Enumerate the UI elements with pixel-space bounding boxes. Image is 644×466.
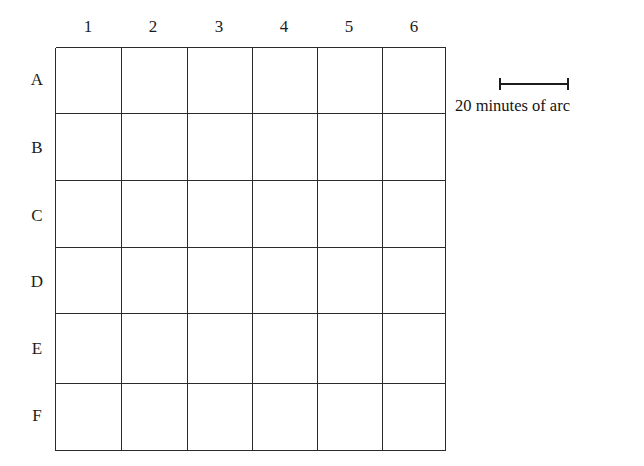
column-label-2: 2 [120,16,186,38]
grid-cell-b1[interactable] [55,113,121,180]
scale-bar-caption: 20 minutes of arc [455,96,640,116]
grid-cell-f2[interactable] [121,383,187,451]
row-label-a: A [26,70,48,90]
grid-cell-b6[interactable] [382,113,446,180]
grid-cell-c5[interactable] [317,180,382,247]
column-label-3: 3 [186,16,252,38]
grid-cell-f3[interactable] [187,383,252,451]
column-label-5: 5 [316,16,382,38]
row-label-f: F [26,406,48,426]
grid-cell-c6[interactable] [382,180,446,247]
row-label-d: D [26,272,48,292]
grid-cell-e4[interactable] [252,313,317,383]
grid-area [55,47,446,451]
column-label-4: 4 [251,16,317,38]
scale-bar-group: 20 minutes of arc [455,70,640,120]
grid-cell-c2[interactable] [121,180,187,247]
row-label-c: C [26,206,48,226]
column-label-1: 1 [55,16,121,38]
grid-cell-a1[interactable] [55,47,121,113]
grid-cell-d1[interactable] [55,247,121,313]
grid-cell-b5[interactable] [317,113,382,180]
grid-cell-f1[interactable] [55,383,121,451]
grid-cell-b2[interactable] [121,113,187,180]
grid-cell-c3[interactable] [187,180,252,247]
row-label-b: B [26,138,48,158]
grid-cell-d5[interactable] [317,247,382,313]
grid-cell-d4[interactable] [252,247,317,313]
grid-svg [55,47,446,451]
grid-cell-b3[interactable] [187,113,252,180]
figure-root: 1 2 3 4 5 6 A B C D E F [0,0,644,466]
grid-cell-e3[interactable] [187,313,252,383]
grid-cell-a6[interactable] [382,47,446,113]
grid-cells [55,47,446,451]
grid-cell-e5[interactable] [317,313,382,383]
grid-cell-d2[interactable] [121,247,187,313]
scale-bar-icon [455,70,640,98]
grid-cell-e2[interactable] [121,313,187,383]
grid-cell-a3[interactable] [187,47,252,113]
grid-cell-b4[interactable] [252,113,317,180]
grid-cell-d3[interactable] [187,247,252,313]
grid-cell-c4[interactable] [252,180,317,247]
row-label-e: E [26,339,48,359]
grid-cell-a4[interactable] [252,47,317,113]
grid-cell-e1[interactable] [55,313,121,383]
grid-cell-f4[interactable] [252,383,317,451]
grid-cell-d6[interactable] [382,247,446,313]
grid-cell-e6[interactable] [382,313,446,383]
grid-cell-a2[interactable] [121,47,187,113]
grid-cell-a5[interactable] [317,47,382,113]
grid-cell-f5[interactable] [317,383,382,451]
grid-cell-c1[interactable] [55,180,121,247]
grid-cell-f6[interactable] [382,383,446,451]
column-label-6: 6 [381,16,447,38]
